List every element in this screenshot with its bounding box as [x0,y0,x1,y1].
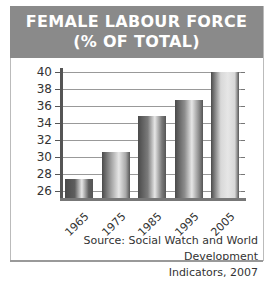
y-tick-mark [55,106,61,107]
right-tick-mark [241,140,245,141]
y-tick-label: 38 [22,83,52,95]
chart-header: FEMALE LABOUR FORCE (% OF TOTAL) [10,6,263,58]
y-tick-mark [55,191,61,192]
bar-2005 [211,72,239,199]
source-note: Source: Social Watch and World Developme… [18,233,258,281]
y-tick-mark [55,123,61,124]
y-tick-label: 34 [22,117,52,129]
right-tick-mark [241,123,245,124]
y-tick-mark [55,140,61,141]
right-tick-mark [241,157,245,158]
y-tick-label: 32 [22,134,52,146]
right-tick-mark [241,89,245,90]
y-tick-mark [55,72,61,73]
y-tick-label: 36 [22,100,52,112]
y-tick-label: 30 [22,151,52,163]
right-tick-mark [241,106,245,107]
x-axis [60,198,246,201]
y-tick-label: 40 [22,66,52,78]
right-tick-mark [241,191,245,192]
bar-1985 [138,116,166,199]
plot-area [62,72,242,199]
y-tick-mark [55,89,61,90]
y-tick-mark [55,174,61,175]
y-tick-label: 26 [22,185,52,197]
bottom-rule [10,260,263,262]
y-tick-label: 28 [22,168,52,180]
source-line-2: Indicators, 2007 [18,265,258,281]
chart-subtitle: (% OF TOTAL) [10,32,263,52]
right-tick-mark [241,72,245,73]
right-tick-mark [241,174,245,175]
bar-1995 [175,100,203,199]
bar-1975 [102,152,130,199]
chart-title: FEMALE LABOUR FORCE [10,12,263,32]
y-tick-mark [55,157,61,158]
bar-1965 [65,179,93,199]
